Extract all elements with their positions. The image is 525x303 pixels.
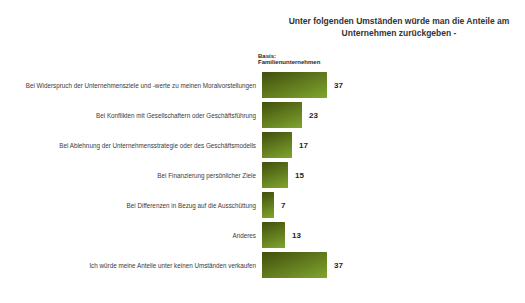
category-label: Ich würde meine Anteile unter keinen Ums… bbox=[0, 262, 256, 269]
chart-row: Bei Finanzierung persönlicher Ziele 15 bbox=[0, 160, 525, 190]
category-label: Bei Finanzierung persönlicher Ziele bbox=[0, 172, 256, 179]
chart-row: Bei Ablehnung der Unternehmensstrategie … bbox=[0, 130, 525, 160]
value-label: 15 bbox=[295, 171, 304, 180]
basis-note-line-2: Familienunternehmen bbox=[258, 59, 320, 65]
category-label: Bei Konflikten mit Gesellschaftern oder … bbox=[0, 112, 256, 119]
chart-title-line-1: Unter folgenden Umständen würde man die … bbox=[283, 16, 515, 28]
bar bbox=[262, 162, 288, 188]
chart-title-line-2: Unternehmen zurückgeben - bbox=[283, 28, 515, 40]
category-label: Bei Ablehnung der Unternehmensstrategie … bbox=[0, 142, 256, 149]
bar bbox=[262, 222, 285, 248]
chart-row: Bei Differenzen in Bezug auf die Ausschü… bbox=[0, 190, 525, 220]
chart-row: Bei Widerspruch der Unternehmensziele un… bbox=[0, 70, 525, 100]
chart-title: Unter folgenden Umständen würde man die … bbox=[283, 16, 515, 39]
bar bbox=[262, 72, 327, 98]
bar-chart: Bei Widerspruch der Unternehmensziele un… bbox=[0, 70, 525, 280]
value-label: 37 bbox=[334, 81, 343, 90]
bar bbox=[262, 132, 292, 158]
value-label: 13 bbox=[292, 231, 301, 240]
slide: Unter folgenden Umständen würde man die … bbox=[0, 0, 525, 303]
value-label: 23 bbox=[309, 111, 318, 120]
chart-row: Anderes 13 bbox=[0, 220, 525, 250]
category-label: Anderes bbox=[0, 232, 256, 239]
value-label: 7 bbox=[281, 201, 285, 210]
bar bbox=[262, 192, 274, 218]
bar bbox=[262, 102, 302, 128]
value-label: 37 bbox=[334, 261, 343, 270]
chart-row: Bei Konflikten mit Gesellschaftern oder … bbox=[0, 100, 525, 130]
value-label: 17 bbox=[299, 141, 308, 150]
basis-note: Basis: Familienunternehmen bbox=[258, 53, 320, 65]
category-label: Bei Differenzen in Bezug auf die Ausschü… bbox=[0, 202, 256, 209]
bar bbox=[262, 252, 327, 278]
category-label: Bei Widerspruch der Unternehmensziele un… bbox=[0, 82, 256, 89]
chart-row: Ich würde meine Anteile unter keinen Ums… bbox=[0, 250, 525, 280]
